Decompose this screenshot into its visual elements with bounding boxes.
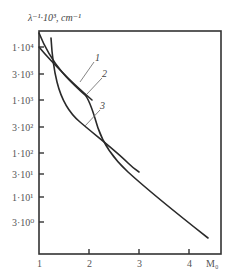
- x-tick-label: 4: [187, 258, 192, 269]
- chart: λ⁻¹·10³, cm⁻¹ 1·10⁴ 3·10³ 1·10³ 3·10² 1·…: [0, 0, 232, 276]
- curve-label-2: 2: [102, 68, 107, 79]
- x-tick-label: 1: [37, 258, 42, 269]
- series-1-line: [39, 33, 208, 238]
- y-tick-label: 3·10²: [12, 122, 33, 133]
- curve-label-3: 3: [99, 100, 105, 111]
- y-tick-label: 1·10⁴: [12, 42, 34, 53]
- y-tick-label: 3·10⁰: [12, 217, 34, 228]
- y-tick-label: 1·10³: [12, 95, 33, 106]
- curve-label-1: 1: [95, 52, 100, 63]
- y-tick-label: 3·10³: [12, 69, 33, 80]
- plot-frame: [39, 31, 221, 254]
- x-tick-label: 3: [137, 258, 142, 269]
- y-tick-label: 1·10¹: [12, 192, 33, 203]
- x-axis-title: M₀: [206, 258, 219, 269]
- y-tick-label: 1·10²: [12, 148, 33, 159]
- y-tick-label: 3·10¹: [12, 169, 33, 180]
- y-axis-title: λ⁻¹·10³, cm⁻¹: [27, 12, 81, 23]
- series-2-line: [39, 47, 92, 100]
- x-tick-label: 2: [87, 258, 92, 269]
